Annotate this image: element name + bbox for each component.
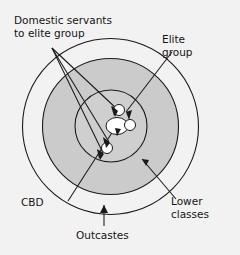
satellite-circle-right <box>125 120 136 131</box>
label-domestic-servants-line2: to elite group <box>14 27 85 39</box>
label-lower-line1: Lower <box>171 195 203 207</box>
label-outcastes: Outcastes <box>76 229 129 241</box>
label-domestic-servants-line1: Domestic servants <box>14 14 112 26</box>
label-elite-line2: group <box>162 46 193 58</box>
label-elite-line1: Elite <box>162 33 185 45</box>
label-lower-line2: classes <box>171 208 209 220</box>
concentric-social-structure-diagram: Domestic servants to elite group Elite g… <box>0 0 240 255</box>
label-cbd: CBD <box>21 196 44 208</box>
